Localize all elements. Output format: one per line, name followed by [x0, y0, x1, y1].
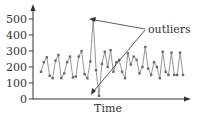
data-point-marker — [101, 63, 103, 65]
data-point-marker — [150, 74, 152, 76]
data-point-marker — [46, 56, 48, 58]
data-point-marker — [60, 77, 62, 79]
arrow-head-icon — [89, 17, 96, 22]
data-point-marker — [164, 71, 166, 73]
y-tick-label: 100 — [6, 77, 27, 90]
data-point-marker — [159, 77, 161, 79]
data-point-marker — [72, 76, 74, 78]
data-point-marker — [98, 95, 100, 97]
data-point-marker — [66, 61, 68, 63]
data-point-marker — [133, 55, 135, 57]
y-axis-arrow-icon — [31, 4, 36, 11]
data-point-marker — [95, 69, 97, 71]
data-point-marker — [130, 63, 132, 65]
data-point-marker — [138, 72, 140, 74]
data-point-marker — [104, 51, 106, 53]
data-point-marker — [63, 72, 65, 74]
data-point-marker — [135, 59, 137, 61]
data-point-marker — [69, 55, 71, 57]
outlier-arrow-high — [92, 20, 145, 30]
data-point-marker — [141, 66, 143, 68]
data-point-marker — [147, 67, 149, 69]
data-point-marker — [83, 73, 85, 75]
data-point-marker — [167, 74, 169, 76]
data-point-marker — [112, 71, 114, 73]
data-point-marker — [89, 60, 91, 62]
y-tick-label: 300 — [6, 45, 27, 58]
data-point-marker — [49, 75, 51, 77]
data-point-marker — [121, 71, 123, 73]
data-point-marker — [176, 74, 178, 76]
line-chart: 0100200300400500 Time outliers — [0, 0, 197, 117]
data-point-marker — [86, 77, 88, 79]
data-point-marker — [153, 61, 155, 63]
data-point-marker — [170, 51, 172, 53]
outliers-label: outliers — [148, 23, 191, 36]
data-point-marker — [43, 61, 45, 63]
outliers-annotation: outliers — [89, 17, 191, 95]
data-point-marker — [179, 51, 181, 53]
data-point-marker — [127, 52, 129, 54]
data-point-marker — [54, 59, 56, 61]
data-point-marker — [182, 74, 184, 76]
y-axis-ticks: 0100200300400500 — [6, 13, 33, 106]
data-point-marker — [57, 54, 59, 56]
data-point-marker — [124, 77, 126, 79]
data-point-marker — [173, 74, 175, 76]
data-point-marker — [75, 75, 77, 77]
x-axis-arrow-icon — [184, 97, 191, 102]
data-point-marker — [51, 77, 53, 79]
data-point-marker — [78, 55, 80, 57]
data-point-marker — [162, 51, 164, 53]
y-tick-label: 200 — [6, 61, 27, 74]
data-point-marker — [156, 66, 158, 68]
y-tick-label: 500 — [6, 13, 27, 26]
data-point-marker — [107, 66, 109, 68]
data-point-marker — [40, 71, 42, 73]
y-tick-label: 400 — [6, 29, 27, 42]
x-axis-label: Time — [94, 102, 122, 115]
data-point-marker — [144, 46, 146, 48]
y-tick-label: 0 — [20, 93, 27, 106]
data-point-marker — [109, 49, 111, 51]
data-point-marker — [80, 50, 82, 52]
